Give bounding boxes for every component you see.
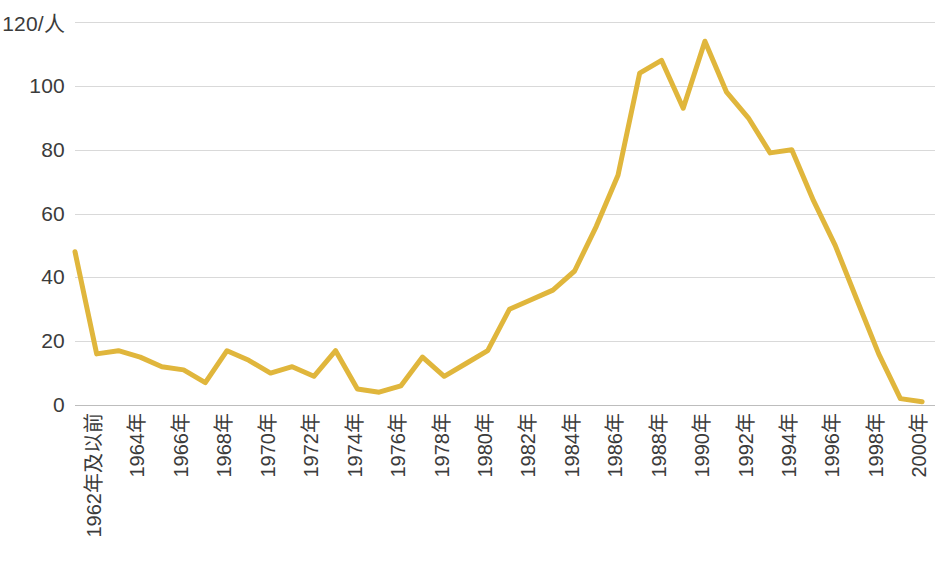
x-tick-label-text: 1980年	[475, 413, 495, 482]
y-tick-label-40: 40	[41, 265, 65, 289]
x-tick-label-8: 1978年	[432, 413, 452, 482]
y-tick-label-100: 100	[29, 74, 65, 98]
y-tick-label-60: 60	[41, 202, 65, 226]
x-tick-label-text: 1990年	[692, 413, 712, 482]
y-tick-label-80: 80	[41, 138, 65, 162]
x-tick-label-text: 1964年	[127, 413, 147, 482]
x-tick-label-text: 1992年	[736, 413, 756, 482]
x-axis: 1962年及以前1964年1966年1968年1970年1972年1974年19…	[0, 405, 944, 563]
x-tick-label-10: 1982年	[518, 413, 538, 482]
plot-area	[75, 22, 935, 405]
x-tick-label-0: 1962年及以前	[84, 413, 104, 542]
x-tick-label-14: 1990年	[692, 413, 712, 482]
x-tick-label-text: 1972年	[301, 413, 321, 482]
x-tick-label-6: 1974年	[345, 413, 365, 482]
x-tick-label-16: 1994年	[779, 413, 799, 482]
x-tick-label-5: 1972年	[301, 413, 321, 482]
x-tick-label-18: 1998年	[866, 413, 886, 482]
y-tick-label-20: 20	[41, 329, 65, 353]
x-tick-label-text: 1968年	[214, 413, 234, 482]
x-tick-label-text: 1978年	[432, 413, 452, 482]
x-tick-label-text: 1994年	[779, 413, 799, 482]
x-tick-label-text: 1962年及以前	[84, 413, 104, 542]
x-tick-label-15: 1992年	[736, 413, 756, 482]
x-tick-label-text: 1974年	[345, 413, 365, 482]
x-tick-label-text: 1996年	[822, 413, 842, 482]
x-tick-label-9: 1980年	[475, 413, 495, 482]
data-series-line	[75, 22, 935, 405]
y-axis: 020406080100120/人	[0, 0, 75, 405]
x-tick-label-text: 1988年	[649, 413, 669, 482]
x-tick-label-text: 1966年	[171, 413, 191, 482]
x-tick-label-13: 1988年	[649, 413, 669, 482]
x-tick-label-3: 1968年	[214, 413, 234, 482]
x-tick-label-text: 1998年	[866, 413, 886, 482]
x-tick-label-17: 1996年	[822, 413, 842, 482]
x-tick-label-text: 1982年	[518, 413, 538, 482]
x-tick-label-7: 1976年	[388, 413, 408, 482]
x-tick-label-text: 2000年	[909, 413, 929, 482]
x-tick-label-19: 2000年	[909, 413, 929, 482]
x-tick-label-1: 1964年	[127, 413, 147, 482]
x-tick-label-4: 1970年	[258, 413, 278, 482]
x-tick-label-text: 1970年	[258, 413, 278, 482]
x-tick-label-text: 1984年	[562, 413, 582, 482]
x-tick-label-text: 1976年	[388, 413, 408, 482]
x-tick-label-text: 1986年	[605, 413, 625, 482]
y-tick-label-120: 120/人	[2, 7, 65, 37]
x-tick-label-2: 1966年	[171, 413, 191, 482]
x-tick-label-12: 1986年	[605, 413, 625, 482]
line-chart: 020406080100120/人 1962年及以前1964年1966年1968…	[0, 0, 944, 563]
series-polyline	[75, 41, 922, 402]
x-tick-label-11: 1984年	[562, 413, 582, 482]
